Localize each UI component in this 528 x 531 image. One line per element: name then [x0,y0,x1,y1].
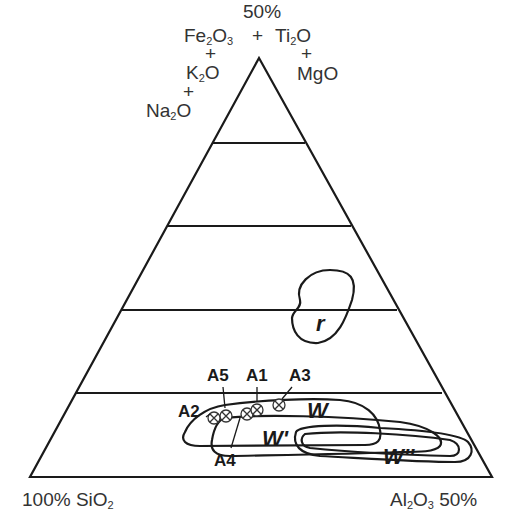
plus-right: + [301,44,312,63]
ternary-diagram [0,0,528,531]
plus-left-1: + [205,44,216,63]
point-label-a5: A5 [207,367,229,384]
sample-a3 [273,399,285,411]
point-label-a1: A1 [246,367,268,384]
field-label-w-prime: W' [262,428,288,450]
sample-a1 [251,404,263,416]
point-label-a3: A3 [289,367,311,384]
apex-na2o: Na2O [146,101,191,122]
plus-left-2: + [183,82,194,101]
point-label-a2: A2 [178,403,200,420]
field-label-r: r [316,313,325,335]
apex-percent: 50% [243,2,281,21]
point-label-a4: A4 [214,452,236,469]
a4-leader [231,418,240,448]
field-label-w-double-prime: W'' [383,446,414,468]
field-label-w: W [307,400,328,422]
apex-mgo: MgO [297,64,338,83]
apex-plus: + [252,26,263,45]
bottom-left-label: 100% SiO2 [22,490,114,511]
sample-a5 [220,410,232,422]
bottom-right-label: Al2O3 50% [390,490,477,511]
